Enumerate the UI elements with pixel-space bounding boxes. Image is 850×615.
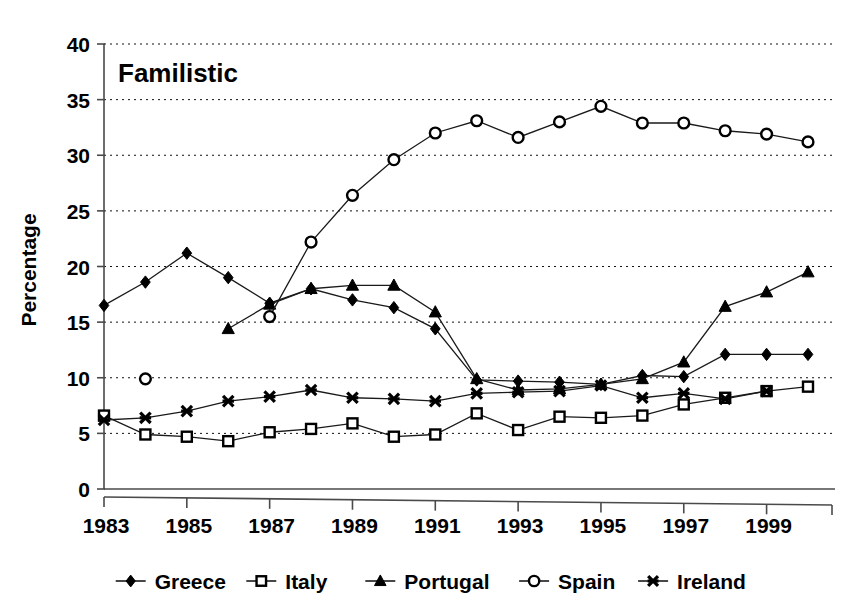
marker-x-cross — [181, 406, 192, 416]
marker-x-cross — [305, 385, 316, 395]
marker-open-square — [140, 429, 150, 439]
marker-open-circle — [554, 116, 565, 127]
x-tick-labels-group: 198319851987198919911993199519971999 — [83, 514, 792, 537]
diamond-glyph — [720, 348, 730, 360]
diamond-glyph — [389, 301, 399, 313]
circle-glyph — [554, 116, 565, 127]
marker-open-circle — [720, 125, 731, 136]
marker-open-square — [223, 436, 233, 446]
marker-open-circle — [803, 137, 814, 148]
marker-filled-diamond — [223, 271, 233, 283]
circle-glyph — [529, 576, 539, 586]
marker-open-square — [555, 412, 565, 422]
series-line-greece — [104, 253, 808, 384]
marker-x-cross — [430, 396, 441, 406]
marker-open-circle — [388, 154, 399, 165]
marker-open-circle — [513, 132, 524, 143]
marker-open-circle — [347, 190, 358, 201]
x-tick-label-1983: 1983 — [83, 514, 130, 537]
marker-open-square — [347, 418, 357, 428]
series-italy — [99, 382, 813, 447]
familistic-line-chart: 0510152025303540 19831985198719891991199… — [0, 0, 850, 615]
marker-filled-triangle — [429, 306, 441, 317]
series-ireland — [98, 380, 772, 425]
marker-x-cross — [678, 388, 689, 398]
series-greece — [99, 247, 813, 391]
marker-x-cross — [140, 413, 151, 423]
marker-filled-diamond — [126, 575, 135, 587]
marker-filled-triangle — [388, 279, 400, 290]
marker-open-circle — [761, 129, 772, 140]
marker-open-square — [265, 427, 275, 437]
marker-filled-diamond — [182, 247, 192, 259]
marker-x-cross — [648, 576, 659, 586]
marker-x-cross — [388, 394, 399, 404]
triangle-glyph — [802, 266, 814, 277]
square-glyph — [223, 436, 233, 446]
circle-glyph — [388, 154, 399, 165]
x-tick-label-1989: 1989 — [331, 514, 378, 537]
marker-open-circle — [140, 373, 151, 384]
marker-filled-diamond — [720, 348, 730, 360]
legend-item-italy[interactable]: Italy — [246, 570, 327, 593]
square-glyph — [555, 412, 565, 422]
x-tick-label-1991: 1991 — [414, 514, 461, 537]
legend-label-italy: Italy — [285, 570, 327, 593]
marker-filled-triangle — [802, 266, 814, 277]
marker-filled-triangle — [222, 322, 234, 333]
marker-open-square — [389, 432, 399, 442]
square-glyph — [182, 432, 192, 442]
circle-glyph — [264, 311, 275, 322]
square-glyph — [306, 424, 316, 434]
diamond-glyph — [348, 294, 358, 306]
marker-filled-diamond — [679, 370, 689, 382]
marker-open-square — [472, 408, 482, 418]
y-tick-labels-group: 0510152025303540 — [67, 33, 91, 501]
marker-filled-diamond — [141, 276, 151, 288]
marker-filled-diamond — [99, 299, 109, 311]
marker-open-square — [637, 411, 647, 421]
legend-item-portugal[interactable]: Portugal — [365, 570, 489, 593]
marker-open-circle — [306, 237, 317, 248]
square-glyph — [389, 432, 399, 442]
circle-glyph — [347, 190, 358, 201]
legend-label-portugal: Portugal — [404, 570, 489, 593]
y-tick-label-10: 10 — [67, 367, 90, 390]
legend-item-ireland[interactable]: Ireland — [638, 570, 746, 593]
x-tick-label-1985: 1985 — [165, 514, 212, 537]
marker-open-circle — [678, 118, 689, 129]
square-glyph — [679, 399, 689, 409]
x-tick-label-1997: 1997 — [662, 514, 709, 537]
y-tick-label-0: 0 — [78, 478, 90, 501]
marker-filled-diamond — [803, 348, 813, 360]
square-glyph — [430, 429, 440, 439]
triangle-glyph — [222, 322, 234, 333]
marker-filled-diamond — [762, 348, 772, 360]
series-line-italy — [104, 387, 808, 442]
circle-glyph — [430, 128, 441, 139]
legend-label-spain: Spain — [558, 570, 615, 593]
y-tick-label-30: 30 — [67, 144, 90, 167]
y-axis-title: Percentage — [17, 213, 40, 326]
circle-glyph — [761, 129, 772, 140]
plot-title: Familistic — [118, 58, 238, 88]
x-tick-label-1993: 1993 — [497, 514, 544, 537]
marker-open-circle — [637, 118, 648, 129]
legend-item-spain[interactable]: Spain — [519, 570, 615, 593]
circle-glyph — [720, 125, 731, 136]
marker-open-square — [182, 432, 192, 442]
series-spain — [140, 101, 813, 384]
square-glyph — [596, 413, 606, 423]
marker-filled-triangle — [761, 286, 773, 297]
x-tick-label-1995: 1995 — [580, 514, 627, 537]
triangle-glyph — [388, 279, 400, 290]
legend-item-greece[interactable]: Greece — [116, 570, 226, 593]
diamond-glyph — [182, 247, 192, 259]
triangle-glyph — [346, 279, 358, 290]
marker-x-cross — [223, 396, 234, 406]
x-tick-label-1999: 1999 — [745, 514, 792, 537]
circle-glyph — [637, 118, 648, 129]
legend-label-greece: Greece — [155, 570, 226, 593]
y-tick-label-35: 35 — [67, 89, 91, 112]
chart-legend: GreeceItalyPortugalSpainIreland — [116, 570, 746, 593]
